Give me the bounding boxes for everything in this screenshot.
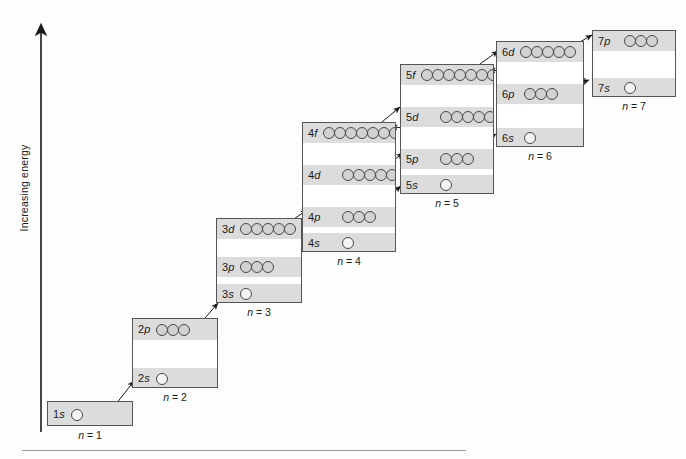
subshell-label-3d: 3d [217, 224, 234, 235]
shell-box-n6[interactable]: 6d 6p 6s [496, 41, 584, 147]
orbital-group-5d [440, 111, 494, 123]
orbital-circle [462, 153, 474, 165]
subshell-row-4p[interactable]: 4p [303, 207, 395, 227]
subshell-label-4p: 4p [303, 212, 320, 223]
subshell-label-2p: 2p [133, 324, 150, 335]
subshell-label-7p: 7p [593, 36, 610, 47]
subshell-label-4s: 4s [303, 238, 320, 249]
subshell-label-4f: 4f [303, 128, 317, 139]
diagram-canvas: Increasing energy [0, 0, 686, 459]
orbital-group-6p [524, 88, 557, 100]
subshell-label-2s: 2s [133, 373, 150, 384]
orbital-group-6d [520, 46, 575, 58]
orbital-circle [546, 88, 558, 100]
orbital-circle [524, 132, 536, 144]
subshell-label-6s: 6s [497, 133, 514, 144]
orbital-circle [262, 261, 274, 273]
subshell-row-4d[interactable]: 4d [303, 165, 395, 185]
orbital-group-2s [156, 373, 167, 385]
subshell-label-7s: 7s [593, 83, 610, 94]
subshell-label-3p: 3p [217, 262, 234, 273]
orbital-circle [71, 409, 83, 421]
shell-box-n4[interactable]: 4f 4d 4p [302, 122, 396, 252]
subshell-label-6p: 6p [497, 89, 514, 100]
subshell-label-1s: 1s [48, 409, 65, 420]
shell-caption-n6: n = 6 [496, 150, 584, 162]
orbital-circle [342, 237, 354, 249]
shell-box-n5[interactable]: 5f 5d 5p [400, 64, 494, 194]
orbital-circle [156, 373, 168, 385]
subshell-row-3s[interactable]: 3s [217, 284, 301, 303]
subshell-row-2s[interactable]: 2s [133, 368, 217, 388]
subshell-label-3s: 3s [217, 289, 234, 300]
orbital-group-1s [71, 409, 82, 421]
orbital-group-5f [421, 69, 494, 81]
arrow-4f-to-5d [382, 107, 400, 122]
orbital-circle [484, 111, 494, 123]
subshell-row-3d[interactable]: 3d [217, 219, 301, 239]
orbital-group-4d [342, 169, 396, 181]
orbital-circle [284, 223, 296, 235]
subshell-label-5d: 5d [401, 112, 418, 123]
subshell-row-6p[interactable]: 6p [497, 84, 583, 104]
subshell-row-5p[interactable]: 5p [401, 149, 493, 169]
shell-caption-n2: n = 2 [132, 391, 218, 403]
subshell-row-4f[interactable]: 4f [303, 123, 395, 143]
orbital-circle [487, 69, 494, 81]
shell-caption-n4: n = 4 [302, 255, 396, 267]
orbital-group-3s [240, 288, 251, 300]
orbital-circle [646, 35, 658, 47]
subshell-row-4s[interactable]: 4s [303, 233, 395, 252]
shell-box-n1[interactable]: 1s [47, 401, 133, 426]
orbital-circle [364, 211, 376, 223]
orbital-circle [178, 324, 190, 336]
orbital-group-4f [323, 127, 396, 139]
shell-box-n2[interactable]: 2p 2s [132, 318, 218, 388]
subshell-label-5f: 5f [401, 70, 415, 81]
orbital-group-6s [524, 132, 535, 144]
orbital-circle [389, 127, 396, 139]
orbital-circle [624, 82, 636, 94]
shell-box-n7[interactable]: 7p 7s [592, 30, 676, 97]
orbital-group-7s [624, 82, 635, 94]
orbital-group-3p [240, 261, 273, 273]
shell-box-n3[interactable]: 3d 3p 3s [216, 218, 302, 303]
subshell-row-3p[interactable]: 3p [217, 257, 301, 277]
shell-caption-n3: n = 3 [216, 306, 302, 318]
shell-caption-n1: n = 1 [47, 429, 133, 441]
subshell-row-5f[interactable]: 5f [401, 65, 493, 85]
shell-caption-n5: n = 5 [400, 197, 494, 209]
subshell-row-5d[interactable]: 5d [401, 107, 493, 127]
orbital-group-2p [156, 324, 189, 336]
orbital-circle [240, 288, 252, 300]
subshell-row-6s[interactable]: 6s [497, 128, 583, 147]
bottom-divider-rule [22, 450, 466, 451]
orbital-group-3d [240, 223, 295, 235]
shell-caption-n7: n = 7 [592, 100, 676, 112]
subshell-row-6d[interactable]: 6d [497, 42, 583, 62]
subshell-row-7p[interactable]: 7p [593, 31, 675, 51]
subshell-label-5s: 5s [401, 180, 418, 191]
orbital-group-4p [342, 211, 375, 223]
subshell-label-5p: 5p [401, 154, 418, 165]
orbital-group-5p [440, 153, 473, 165]
subshell-row-5s[interactable]: 5s [401, 175, 493, 194]
subshell-row-1s[interactable]: 1s [48, 402, 132, 426]
orbital-group-4s [342, 237, 353, 249]
orbital-circle [564, 46, 576, 58]
subshell-row-7s[interactable]: 7s [593, 78, 675, 97]
orbital-circle [440, 179, 452, 191]
orbital-circle [386, 169, 396, 181]
orbital-group-5s [440, 179, 451, 191]
y-axis-label: Increasing energy [18, 118, 30, 258]
orbital-group-7p [624, 35, 657, 47]
subshell-label-4d: 4d [303, 170, 320, 181]
subshell-label-6d: 6d [497, 47, 514, 58]
subshell-row-2p[interactable]: 2p [133, 319, 217, 340]
